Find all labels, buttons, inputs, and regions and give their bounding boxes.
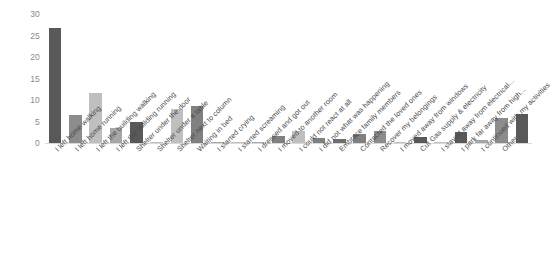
bar[interactable]: [49, 28, 62, 143]
y-tick-label: 25: [30, 31, 40, 41]
y-tick-label: 0: [35, 138, 40, 148]
y-tick-label: 20: [30, 52, 40, 62]
y-tick-label: 10: [30, 95, 40, 105]
bar-slot: [516, 14, 529, 143]
x-axis: I left home walkingI left home runningI …: [45, 143, 532, 258]
bar-slot: [49, 14, 62, 143]
y-tick-label: 30: [30, 9, 40, 19]
y-tick-label: 15: [30, 74, 40, 84]
y-tick-label: 5: [35, 117, 40, 127]
y-axis: 051015202530: [0, 0, 46, 258]
